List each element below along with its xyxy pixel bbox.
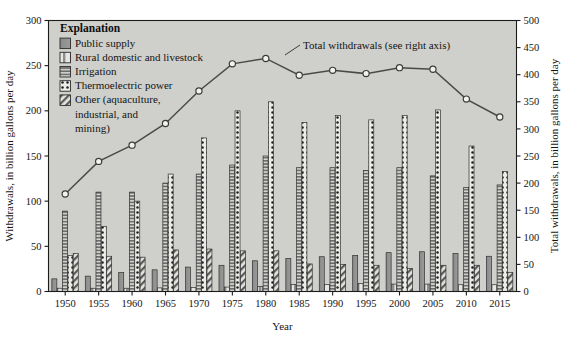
bar xyxy=(430,176,435,292)
bar xyxy=(291,284,296,291)
y2-axis-title: Total withdrawals, in billion gallons pe… xyxy=(548,58,560,253)
x-tick-label: 2005 xyxy=(422,298,443,309)
y2-tick-label: 50 xyxy=(524,259,535,270)
bar xyxy=(252,261,257,292)
legend-item-label: mining) xyxy=(75,122,110,135)
total-line-marker xyxy=(363,71,369,77)
bar xyxy=(458,285,463,292)
bar xyxy=(168,174,173,291)
bar xyxy=(96,192,101,291)
bar xyxy=(101,226,106,291)
x-tick-label: 1985 xyxy=(289,298,310,309)
total-line-marker xyxy=(196,88,202,94)
legend-swatch xyxy=(60,52,71,63)
x-tick-label: 2015 xyxy=(489,298,510,309)
x-axis-title: Year xyxy=(272,320,293,332)
bar xyxy=(441,265,446,291)
bar xyxy=(240,251,245,292)
bar xyxy=(335,115,340,291)
bar xyxy=(341,264,346,291)
bar xyxy=(73,254,78,292)
x-tick-label: 2000 xyxy=(389,298,410,309)
legend-item-label: Public supply xyxy=(75,37,136,49)
bar xyxy=(330,168,335,292)
bar xyxy=(386,253,391,292)
bar xyxy=(436,110,441,292)
water-withdrawals-chart: 0501001502002503000501001502002503003504… xyxy=(0,0,570,342)
bar xyxy=(230,165,235,291)
legend-item-label: Other (aquaculture, xyxy=(75,93,161,106)
y-tick-label: 200 xyxy=(26,105,42,116)
total-line-marker xyxy=(296,72,302,78)
bar xyxy=(207,249,212,291)
bar xyxy=(235,111,240,292)
bar xyxy=(202,138,207,292)
total-line-annotation: Total withdrawals (see right axis) xyxy=(303,39,450,52)
bar xyxy=(107,256,112,291)
legend-title: Explanation xyxy=(60,22,121,35)
total-line-marker xyxy=(430,66,436,72)
bar xyxy=(363,170,368,291)
y-tick-label: 250 xyxy=(26,60,42,71)
chart-svg: 0501001502002503000501001502002503003504… xyxy=(0,0,570,342)
legend-swatch xyxy=(60,81,71,92)
x-tick-label: 1955 xyxy=(88,298,109,309)
bar xyxy=(135,201,140,291)
legend-item-label: Thermoelectric power xyxy=(75,79,173,91)
bar xyxy=(297,168,302,292)
x-tick-label: 1970 xyxy=(188,298,209,309)
legend-swatch xyxy=(60,95,71,106)
bar xyxy=(486,256,491,291)
bar xyxy=(196,174,201,291)
x-tick-label: 1965 xyxy=(155,298,176,309)
bar xyxy=(219,265,224,291)
y2-tick-label: 500 xyxy=(524,15,540,26)
y2-tick-label: 250 xyxy=(524,151,540,162)
bar xyxy=(502,171,507,291)
total-line-marker xyxy=(396,65,402,71)
y-tick-label: 0 xyxy=(36,286,41,297)
bar xyxy=(85,276,90,291)
bar xyxy=(302,123,307,292)
y2-tick-label: 0 xyxy=(524,286,529,297)
legend-swatch xyxy=(60,38,71,49)
bar xyxy=(497,185,502,292)
y2-tick-label: 150 xyxy=(524,205,540,216)
x-tick-label: 2010 xyxy=(456,298,477,309)
bar xyxy=(408,268,413,291)
bar xyxy=(469,146,474,291)
x-tick-label: 1990 xyxy=(322,298,343,309)
x-tick-label: 1960 xyxy=(122,298,143,309)
bar xyxy=(492,285,497,292)
total-line-marker xyxy=(497,114,503,120)
y-tick-label: 150 xyxy=(26,151,42,162)
bar xyxy=(325,284,330,291)
bar xyxy=(307,264,312,292)
total-line-marker xyxy=(263,55,269,61)
bar xyxy=(397,168,402,292)
bar xyxy=(163,183,168,291)
legend-item-label: industrial, and xyxy=(75,108,138,120)
bar xyxy=(258,286,263,291)
bar xyxy=(358,283,363,291)
bar xyxy=(152,270,157,292)
total-line-marker xyxy=(129,142,135,148)
x-tick-label: 1995 xyxy=(356,298,377,309)
total-line-marker xyxy=(463,96,469,102)
bar xyxy=(425,284,430,291)
x-tick-label: 1950 xyxy=(55,298,76,309)
y2-tick-label: 400 xyxy=(524,69,540,80)
x-tick-label: 1980 xyxy=(255,298,276,309)
y-axis-title: Withdrawals, in billion gallons per day xyxy=(3,70,15,242)
bar xyxy=(464,188,469,292)
bar xyxy=(119,273,124,292)
bar xyxy=(508,273,513,292)
y2-tick-label: 200 xyxy=(524,178,540,189)
bar xyxy=(286,259,291,292)
y-tick-label: 300 xyxy=(26,15,42,26)
bar xyxy=(224,287,229,291)
bar xyxy=(274,251,279,292)
total-line-marker xyxy=(62,191,68,197)
bar xyxy=(420,252,425,292)
bar xyxy=(369,120,374,292)
